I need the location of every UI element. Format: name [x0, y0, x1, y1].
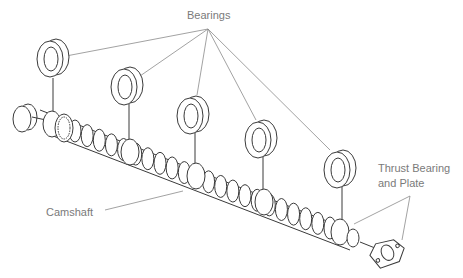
cam-lobe — [154, 152, 166, 174]
cam-lobe — [239, 185, 251, 207]
cam-lobe — [275, 199, 287, 221]
camshaft-leader-line — [105, 191, 183, 210]
cam-lobe — [93, 129, 105, 151]
cam-lobe — [105, 134, 117, 156]
cam-lobe — [312, 212, 324, 234]
cam-lobe — [215, 175, 227, 197]
cam-lobe — [81, 125, 93, 147]
thrust-leader-lines — [354, 196, 410, 240]
diagram-drawing — [0, 0, 463, 278]
bearing-4 — [245, 120, 277, 158]
bearing-1 — [37, 39, 69, 77]
camshaft-label: Camshaft — [46, 206, 93, 219]
cam-lobe — [288, 203, 300, 225]
cam-lobe — [300, 208, 312, 230]
cam-lobe — [166, 157, 178, 179]
bearing-3 — [177, 96, 209, 134]
cam-lobe — [142, 148, 154, 170]
bearing-2 — [111, 67, 143, 105]
thrust-bearing-label-line2: and Plate — [378, 177, 424, 190]
camshaft-diagram: Bearings Camshaft Thrust Bearing and Pla… — [0, 0, 463, 278]
cam-lobe — [227, 180, 239, 202]
bearing-5 — [324, 150, 356, 188]
thrust-bearing-label-line1: Thrust Bearing — [378, 162, 450, 175]
bearings-label: Bearings — [187, 9, 230, 22]
